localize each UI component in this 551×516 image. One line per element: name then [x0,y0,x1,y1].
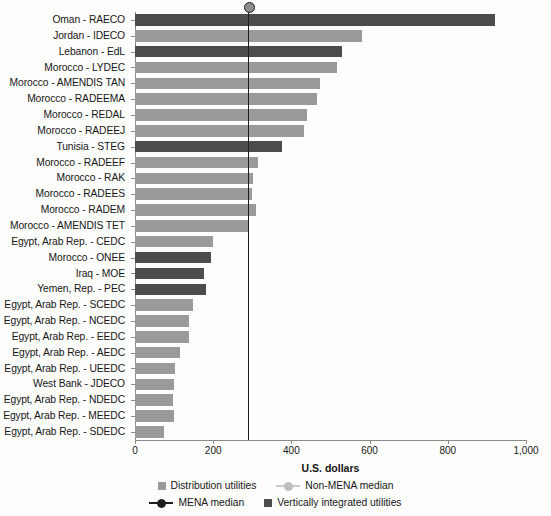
category-axis-labels: Oman - RAECOJordan - IDECOLebanon - EdLM… [0,12,130,440]
category-label: Lebanon - EdL [0,44,130,60]
bar-row [135,376,526,392]
bar [135,268,204,280]
category-label: Tunisia - STEG [0,139,130,155]
legend-item-vertically-integrated-utilities: Vertically integrated utilities [264,497,401,508]
x-axis-tick [448,440,449,444]
bar-row [135,329,526,345]
x-axis-ticks: 02004006008001,000 [135,440,526,446]
x-axis-tick [135,440,136,444]
x-axis-tick [213,440,214,444]
bar-row [135,155,526,171]
category-label: West Bank - JDECO [0,376,130,392]
bar-row [135,123,526,139]
bar-row [135,297,526,313]
category-label: Morocco - REDAL [0,107,130,123]
bar-row [135,44,526,60]
bar-row [135,202,526,218]
bar-row [135,91,526,107]
legend-item-distribution-utilities: Distribution utilities [158,480,257,491]
bar [135,141,282,153]
x-axis-tick-label: 600 [361,445,378,456]
legend-row-1: Distribution utilities Non-MENA median [0,477,551,494]
category-label: Morocco - RADEM [0,202,130,218]
legend-line-dot-icon-mena [149,498,173,507]
category-label: Morocco - RADEES [0,186,130,202]
bar [135,363,175,375]
x-axis-tick-label: 1,000 [513,445,538,456]
category-label: Morocco - RAK [0,170,130,186]
bar-row [135,186,526,202]
bar-row [135,266,526,282]
bar-row [135,218,526,234]
category-label: Morocco - RADEEMA [0,91,130,107]
bar-row [135,60,526,76]
category-label: Yemen, Rep. - PEC [0,281,130,297]
bar [135,93,317,105]
chart-page: Oman - RAECOJordan - IDECOLebanon - EdLM… [0,0,551,516]
category-label: Morocco - ONEE [0,250,130,266]
bar [135,157,258,169]
category-label: Egypt, Arab Rep. - UEEDC [0,361,130,377]
legend-swatch-icon-vertically-integrated [264,499,272,507]
bar [135,109,307,121]
bar [135,62,337,74]
plot-area [135,12,526,440]
bar [135,188,252,200]
bar-row [135,345,526,361]
legend-label-distribution-utilities: Distribution utilities [171,480,257,491]
category-label: Egypt, Arab Rep. - NDEDC [0,392,130,408]
bar-row [135,12,526,28]
category-label: Egypt, Arab Rep. - AEDC [0,345,130,361]
category-label: Iraq - MOE [0,266,130,282]
legend-row-2: MENA median Vertically integrated utilit… [0,494,551,511]
bar-chart: Oman - RAECOJordan - IDECOLebanon - EdLM… [0,0,551,448]
category-label: Oman - RAECO [0,12,130,28]
category-label: Egypt, Arab Rep. - SCEDC [0,297,130,313]
category-label: Egypt, Arab Rep. - NCEDC [0,313,130,329]
legend-item-mena-median: MENA median [149,497,244,508]
category-label: Egypt, Arab Rep. - EEDC [0,329,130,345]
legend-swatch-icon-distribution [158,482,166,490]
bar [135,410,174,422]
chart-legend: Distribution utilities Non-MENA median M… [0,477,551,511]
bar-row [135,75,526,91]
category-label: Egypt, Arab Rep. - CEDC [0,234,130,250]
legend-line-dot-icon-non-mena [276,481,300,490]
bar-row [135,392,526,408]
legend-label-mena-median: MENA median [178,497,244,508]
bar-row [135,170,526,186]
legend-item-non-mena-median: Non-MENA median [276,480,393,491]
bar-row [135,234,526,250]
category-label: Morocco - RADEEF [0,155,130,171]
bar [135,315,189,327]
category-label: Morocco - LYDEC [0,60,130,76]
bar-row [135,408,526,424]
bar [135,46,342,58]
bar [135,284,206,296]
mena-median-line [248,4,249,440]
category-label: Egypt, Arab Rep. - SDEDC [0,424,130,440]
x-axis-tick-label: 0 [132,445,138,456]
category-label: Morocco - AMENDIS TAN [0,75,130,91]
bar [135,14,495,26]
bar-row [135,361,526,377]
x-axis-title: U.S. dollars [135,462,526,474]
bar-row [135,281,526,297]
x-axis-tick [526,440,527,444]
bar-row [135,28,526,44]
bar [135,220,248,232]
bar-row [135,107,526,123]
bar [135,331,189,343]
bar-row [135,313,526,329]
category-label: Jordan - IDECO [0,28,130,44]
x-axis-tick [291,440,292,444]
x-axis-tick-label: 200 [205,445,222,456]
x-axis-tick-label: 800 [439,445,456,456]
bar [135,236,213,248]
bar [135,394,173,406]
bar [135,252,211,264]
legend-label-non-mena-median: Non-MENA median [305,480,393,491]
mena-median-marker-dot [244,2,255,13]
bar [135,173,253,185]
bar [135,347,180,359]
